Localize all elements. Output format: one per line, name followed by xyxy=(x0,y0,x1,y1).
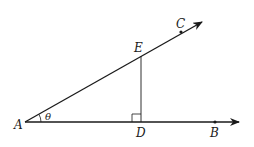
label-c: C xyxy=(176,17,185,31)
label-b: B xyxy=(209,126,219,140)
label-theta: θ xyxy=(45,111,51,122)
angle-arc-theta xyxy=(39,114,41,122)
point-b-dot xyxy=(213,120,216,123)
ray-ac xyxy=(25,22,202,122)
label-d: D xyxy=(135,126,146,140)
right-angle-marker xyxy=(132,114,141,122)
label-e: E xyxy=(133,41,143,55)
label-a: A xyxy=(13,118,23,132)
geometry-diagram: A B C D E θ xyxy=(0,0,254,147)
